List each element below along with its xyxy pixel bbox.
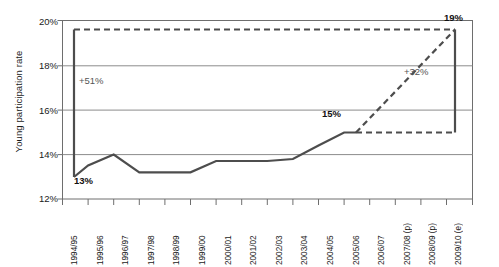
x-tick-label-6: 2000/01 — [224, 203, 233, 265]
end-value-label: 19% — [444, 12, 463, 23]
x-tick-label-9: 2003/04 — [300, 203, 309, 265]
x-tick-label-5: 1999/00 — [198, 203, 207, 265]
x-tick-label-1: 1995/96 — [96, 203, 105, 265]
x-tick-label-11: 2005/06 — [352, 203, 361, 265]
x-tick-label-13: 2007/08 (p) — [403, 203, 412, 265]
growth-left-annotation: +51% — [79, 75, 104, 86]
x-tick-label-2: 1996/97 — [121, 203, 130, 265]
x-tick-label-10: 2004/05 — [326, 203, 335, 265]
growth-right-annotation: +32% — [404, 66, 429, 77]
x-tick-label-0: 1994/95 — [70, 203, 79, 265]
x-tick-label-14: 2008/09 (p) — [428, 203, 437, 265]
x-tick-label-7: 2001/02 — [249, 203, 258, 265]
chart-container: Young participation rate 20% 18% 16% 14%… — [0, 0, 499, 267]
x-tick-label-8: 2002/03 — [275, 203, 284, 265]
x-tick-label-4: 1998/99 — [172, 203, 181, 265]
start-value-label: 13% — [74, 175, 93, 186]
x-tick-label-12: 2006/07 — [377, 203, 386, 265]
mid-value-label: 15% — [322, 108, 341, 119]
y-axis-ticks — [58, 21, 63, 200]
x-tick-label-15: 2009/10 (e) — [454, 203, 463, 265]
x-tick-label-3: 1997/98 — [147, 203, 156, 265]
